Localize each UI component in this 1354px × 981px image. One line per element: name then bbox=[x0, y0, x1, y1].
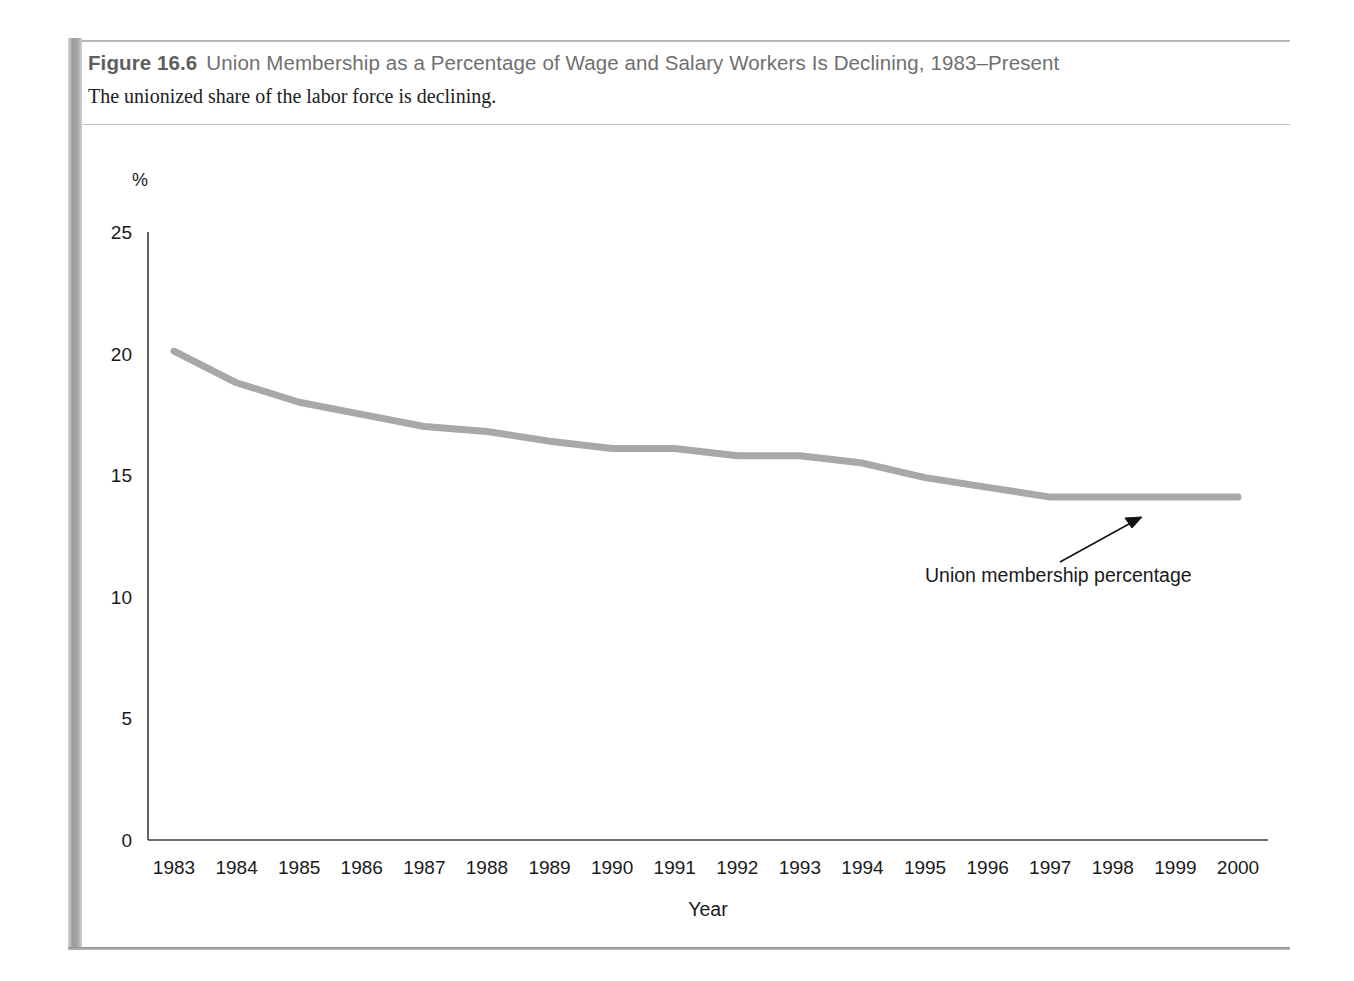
x-tick-label: 1990 bbox=[591, 857, 633, 878]
x-tick-label: 1993 bbox=[779, 857, 821, 878]
figure-left-accent-bar bbox=[68, 38, 82, 950]
figure-title: Union Membership as a Percentage of Wage… bbox=[206, 51, 1059, 74]
x-tick-label: 1986 bbox=[341, 857, 383, 878]
line-chart-svg: % 0510152025 198319841985198619871988198… bbox=[82, 126, 1290, 946]
figure-root: Figure 16.6Union Membership as a Percent… bbox=[0, 0, 1354, 981]
y-tick-label: 20 bbox=[111, 344, 132, 365]
figure-header-divider bbox=[82, 124, 1290, 125]
figure-subtitle: The unionized share of the labor force i… bbox=[88, 84, 1278, 108]
y-tick-label: 25 bbox=[111, 222, 132, 243]
x-tick-label: 1991 bbox=[654, 857, 696, 878]
y-tick-label: 10 bbox=[111, 587, 132, 608]
x-tick-label: 1985 bbox=[278, 857, 320, 878]
series-line-union-membership bbox=[174, 351, 1238, 497]
y-tick-label: 5 bbox=[121, 708, 132, 729]
y-tick-label: 15 bbox=[111, 465, 132, 486]
figure-number: Figure 16.6 bbox=[88, 51, 197, 74]
x-tick-label: 1998 bbox=[1092, 857, 1134, 878]
figure-bottom-rule bbox=[68, 947, 1290, 950]
y-tick-label: 0 bbox=[121, 830, 132, 851]
figure-title-line: Figure 16.6Union Membership as a Percent… bbox=[88, 50, 1278, 76]
y-axis-tick-labels: 0510152025 bbox=[111, 222, 132, 851]
chart-plot-area: % 0510152025 198319841985198619871988198… bbox=[82, 126, 1290, 946]
x-axis-title: Year bbox=[688, 898, 728, 920]
annotation-label: Union membership percentage bbox=[925, 564, 1192, 586]
x-tick-label: 2000 bbox=[1217, 857, 1259, 878]
x-tick-label: 1996 bbox=[967, 857, 1009, 878]
x-tick-label: 1992 bbox=[716, 857, 758, 878]
x-tick-label: 1988 bbox=[466, 857, 508, 878]
x-tick-label: 1997 bbox=[1029, 857, 1071, 878]
x-tick-label: 1989 bbox=[528, 857, 570, 878]
arrowhead-icon bbox=[1125, 517, 1142, 528]
annotation-leader-line bbox=[1060, 519, 1138, 562]
x-tick-label: 1984 bbox=[215, 857, 258, 878]
figure-top-rule bbox=[82, 40, 1290, 42]
figure-header: Figure 16.6Union Membership as a Percent… bbox=[88, 50, 1278, 108]
annotation-arrow bbox=[1060, 517, 1142, 562]
x-axis-tick-labels: 1983198419851986198719881989199019911992… bbox=[153, 857, 1259, 878]
x-tick-label: 1983 bbox=[153, 857, 195, 878]
x-tick-label: 1999 bbox=[1154, 857, 1196, 878]
x-tick-label: 1994 bbox=[841, 857, 884, 878]
x-tick-label: 1987 bbox=[403, 857, 445, 878]
y-axis-unit-label: % bbox=[132, 170, 148, 190]
x-tick-label: 1995 bbox=[904, 857, 946, 878]
